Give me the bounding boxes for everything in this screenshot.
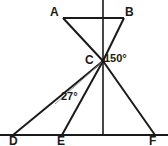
segment-ac-line [63,18,103,61]
angle-label-27: 27° [61,91,78,102]
diagram-canvas [0,0,168,146]
angle-label-150: 150° [104,53,127,64]
vertex-label-d: D [9,135,18,146]
segment-cd-line [13,61,103,135]
vertex-label-a: A [50,6,59,18]
segment-cf-line [103,61,155,135]
vertex-label-f: F [149,135,156,146]
vertex-label-b: B [125,6,134,18]
geometry-diagram: A B C D E F 150° 27° [0,0,168,146]
vertex-label-e: E [57,135,65,146]
vertex-label-c: C [85,54,94,66]
